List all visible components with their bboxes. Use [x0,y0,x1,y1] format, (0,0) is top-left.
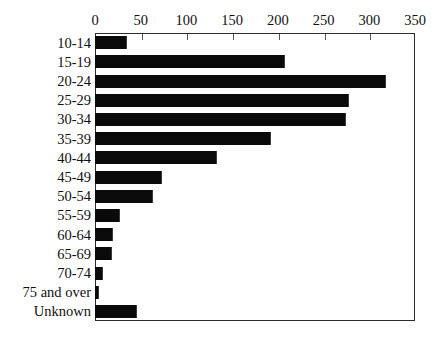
category-axis-tick-label: Unknown [34,304,91,319]
category-axis-tick-label: 35-39 [57,131,91,146]
x-axis-tick-mark [187,34,188,40]
x-axis-tick-label: 300 [358,11,380,29]
plot-area-frame [95,33,415,321]
category-axis-tick-label: 25-29 [57,93,91,108]
x-axis-tick-mark [370,34,371,40]
category-axis-tick-label: 55-59 [57,208,91,223]
x-axis-tick-labels: 050100150200250300350 [0,11,435,29]
category-axis-tick-label: 30-34 [57,112,91,127]
x-axis-tick-label: 350 [404,11,426,29]
x-axis-tick-label: 250 [313,11,335,29]
x-axis-tick-mark [142,34,143,40]
x-axis-tick-mark [325,34,326,40]
x-axis-tick-label: 0 [91,11,98,29]
category-axis-tick-label: 40-44 [57,150,91,165]
category-axis-tick-label: 65-69 [57,246,91,261]
x-axis-tick-mark [279,34,280,40]
x-axis-tick-label: 200 [267,11,289,29]
category-axis-tick-label: 10-14 [57,35,91,50]
x-axis-tick-label: 100 [176,11,198,29]
category-axis-tick-label: 75 and over [23,285,91,300]
category-axis-tick-label: 50-54 [57,189,91,204]
category-axis-tick-label: 60-64 [57,227,91,242]
category-axis-tick-label: 20-24 [57,74,91,89]
category-axis-tick-label: 70-74 [57,266,91,281]
x-axis-tick-label: 150 [221,11,243,29]
category-axis-tick-label: 15-19 [57,54,91,69]
category-axis-labels: 10-1415-1920-2425-2930-3435-3940-4445-49… [0,33,91,321]
bar-chart: 050100150200250300350 10-1415-1920-2425-… [0,0,435,339]
x-axis-tick-mark [233,34,234,40]
x-axis-tick-label: 50 [133,11,148,29]
category-axis-tick-label: 45-49 [57,170,91,185]
